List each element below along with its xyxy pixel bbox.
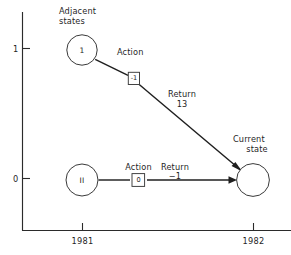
y-tick-label-1: 1 [13,44,19,54]
adjacent-states-label-line2: states [59,17,85,27]
action-label-lower: Action [122,163,155,173]
transition-upper-arrow [95,59,242,171]
axes-group [22,12,291,231]
return-value-upper: 13 [165,100,199,110]
node-label-adjacent-state-upper: 1 [72,46,92,55]
return-value-lower: −1 [158,172,192,182]
action-value-lower: 0 [132,176,145,184]
diagram-canvas [0,0,291,255]
transition-lower-arrowhead [229,176,238,184]
state-transition-diagram: Adjacent states Current state 1 II Actio… [0,0,291,255]
node-label-adjacent-state-lower: II [72,176,92,185]
x-tick-label-1982: 1982 [237,236,270,246]
y-tick-label-0: 0 [13,174,19,184]
action-value-upper: -1 [128,74,140,82]
action-label-upper: Action [117,48,144,58]
current-state-label-line2: state [233,145,281,155]
transition-upper-segment-a [95,59,128,75]
x-tick-label-1981: 1981 [66,236,99,246]
node-current-state[interactable] [237,164,270,197]
